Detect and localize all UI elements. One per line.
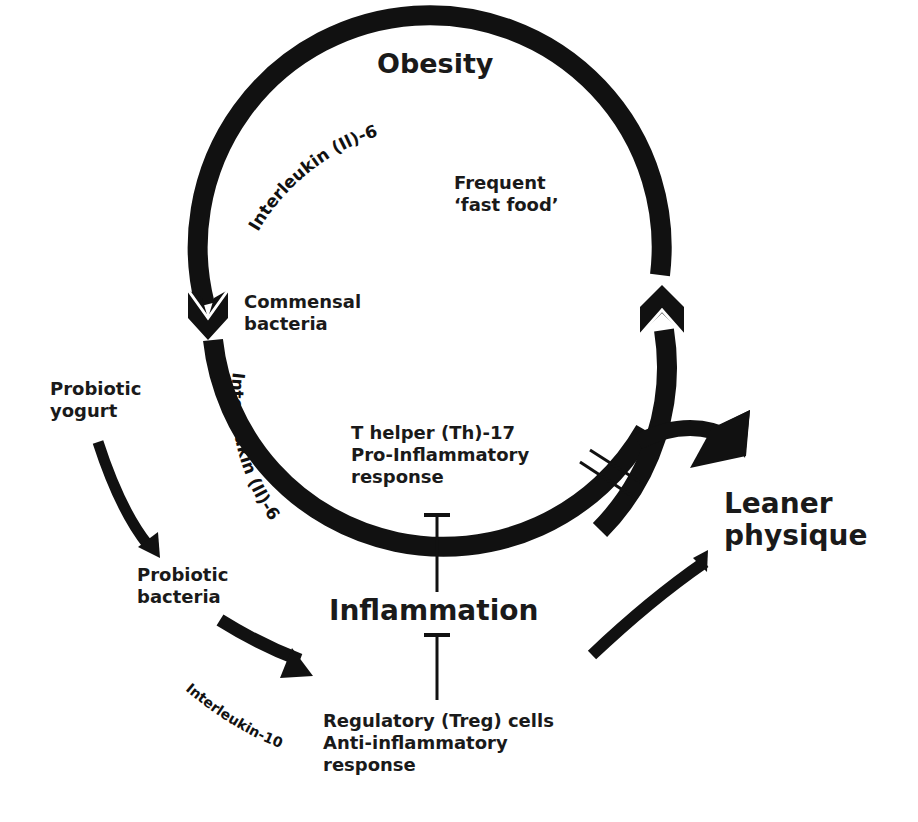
probiotic-bacteria-line2: bacteria (137, 586, 228, 608)
fast-food-line1: Frequent (454, 172, 559, 194)
node-inflammation: Inflammation (329, 595, 538, 627)
node-th17: T helper (Th)-17 Pro-Inflammatory respon… (351, 422, 529, 488)
commensal-line1: Commensal (244, 291, 361, 313)
probiotic-yogurt-line2: yogurt (50, 400, 141, 422)
fast-food-line2: ‘fast food’ (454, 194, 559, 216)
th17-line3: response (351, 466, 529, 488)
treg-line2: Anti-inflammatory (323, 732, 554, 754)
leaner-line2: physique (724, 520, 867, 552)
node-fast-food: Frequent ‘fast food’ (454, 172, 559, 216)
il10-label: Interleukin-10 (183, 680, 285, 751)
arrow-bacteria-to-treg (220, 620, 313, 678)
treg-line1: Regulatory (Treg) cells (323, 710, 554, 732)
node-treg: Regulatory (Treg) cells Anti-inflammator… (323, 710, 554, 776)
arrow-yogurt-to-bacteria (98, 442, 160, 558)
commensal-line2: bacteria (244, 313, 361, 335)
chevron-up-icon (640, 285, 684, 335)
probiotic-yogurt-line1: Probiotic (50, 378, 141, 400)
leaner-line1: Leaner (724, 488, 867, 520)
th17-line1: T helper (Th)-17 (351, 422, 529, 444)
probiotic-bacteria-line1: Probiotic (137, 564, 228, 586)
node-probiotic-yogurt: Probiotic yogurt (50, 378, 141, 422)
node-probiotic-bacteria: Probiotic bacteria (137, 564, 228, 608)
arrow-treg-to-leaner (592, 550, 708, 655)
node-obesity: Obesity (377, 48, 493, 80)
node-commensal-bacteria: Commensal bacteria (244, 291, 361, 335)
inhibit-treg-to-inflammation (424, 635, 450, 700)
th17-line2: Pro-Inflammatory (351, 444, 529, 466)
il6-top-label: Interleukin (Il)-6 (244, 121, 380, 235)
treg-line3: response (323, 754, 554, 776)
node-leaner-physique: Leaner physique (724, 488, 867, 552)
